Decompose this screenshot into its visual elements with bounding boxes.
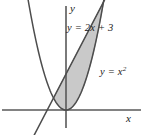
line-equation-label: y = 2x + 3: [67, 23, 114, 34]
parabola-equation-label: y = x2: [100, 67, 126, 78]
parabola-equation-base: y = x: [100, 66, 123, 77]
y-axis-label: y: [70, 3, 75, 14]
parabola-equation-exponent: 2: [123, 65, 127, 73]
shaded-area-region: [54, 2, 104, 110]
x-axis-label: x: [126, 113, 131, 124]
graph-figure: y x y = 2x + 3 y = x2: [0, 0, 143, 135]
